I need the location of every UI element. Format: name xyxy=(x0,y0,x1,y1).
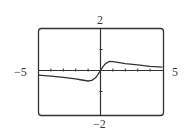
x-min-label: −5 xyxy=(14,66,27,78)
y-min-label: −2 xyxy=(93,118,106,130)
y-max-label: 2 xyxy=(97,14,103,26)
x-max-label: 5 xyxy=(172,66,178,78)
chart-plot xyxy=(0,0,185,134)
